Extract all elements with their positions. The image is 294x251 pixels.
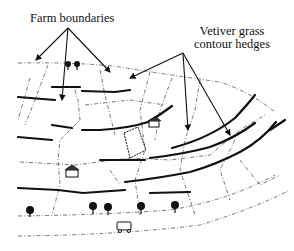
tree-icon xyxy=(65,61,71,70)
house-icon xyxy=(65,165,79,177)
farm-boundary-lines xyxy=(18,63,290,236)
farmstead-plot xyxy=(124,127,146,158)
tree-icon xyxy=(171,201,179,213)
tree-icon xyxy=(89,202,97,214)
diagram-canvas: Farm boundaries Vetiver grass contour he… xyxy=(0,0,294,251)
vehicle-icon xyxy=(117,222,131,233)
tree-icon xyxy=(26,206,34,217)
vetiver-label-line2: contour hedges xyxy=(176,38,288,51)
farm-boundaries-label: Farm boundaries xyxy=(30,12,114,25)
tree-icon xyxy=(74,61,80,70)
house-icon xyxy=(148,117,161,127)
vetiver-hedges-label: Vetiver grass contour hedges xyxy=(176,25,288,51)
